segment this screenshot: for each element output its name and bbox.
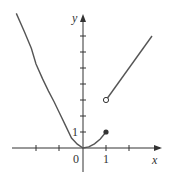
parabola-curve <box>16 13 106 148</box>
piecewise-function-graph: y x 0 1 1 <box>0 0 169 181</box>
linear-segment <box>108 36 153 98</box>
x-axis-label: x <box>151 153 158 167</box>
x-tick-label-1: 1 <box>103 152 109 166</box>
y-axis-label: y <box>71 11 78 25</box>
y-tick-label-1: 1 <box>72 125 78 139</box>
closed-point-marker <box>103 129 108 134</box>
x-tick-label-0: 0 <box>73 152 79 166</box>
open-point-marker <box>103 97 108 102</box>
x-axis <box>12 145 162 151</box>
